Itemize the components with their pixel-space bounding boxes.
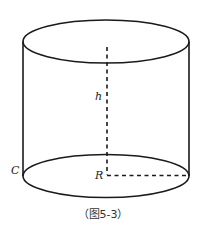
height-label: h — [95, 90, 102, 103]
bottom-ellipse — [23, 155, 189, 198]
cylinder-diagram: h R C （图5-3） — [0, 0, 200, 235]
top-ellipse — [23, 20, 189, 63]
circumference-label: C — [11, 164, 20, 177]
figure-caption: （图5-3） — [78, 208, 129, 221]
radius-label: R — [94, 169, 103, 182]
